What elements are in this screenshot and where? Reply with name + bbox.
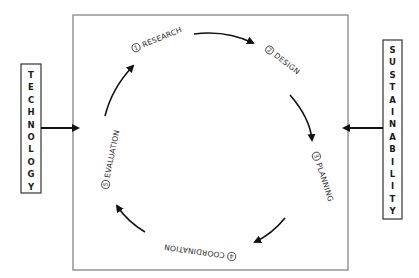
sustainability-input-box: SUSTAINABILITY [383, 40, 402, 219]
step-coordination: 4 COORDINATION [164, 243, 237, 262]
step-design: 2 DESIGN [264, 44, 302, 76]
arrow-research-to-design [194, 33, 253, 43]
arrow-design-to-planning [290, 95, 312, 140]
label-letter: L [390, 169, 396, 179]
label-letter: T [390, 82, 396, 92]
step-evaluation: 5 EVALUATION [100, 129, 121, 189]
svg-text:COORDINATION: COORDINATION [164, 243, 226, 260]
label-letter: I [391, 181, 394, 191]
label-letter: H [27, 107, 34, 117]
svg-text:EVALUATION: EVALUATION [103, 129, 122, 178]
label-letter: B [389, 144, 395, 154]
label-letter: S [389, 70, 395, 80]
svg-text:RESEARCH: RESEARCH [141, 25, 183, 49]
arrow-evaluation-to-research [105, 66, 133, 116]
label-letter: T [390, 194, 396, 204]
technology-input-box: TECHNOLOGY [21, 64, 41, 193]
label-letter: L [28, 144, 34, 154]
label-letter: U [389, 57, 396, 67]
svg-text:PLANNING: PLANNING [314, 161, 335, 202]
label-letter: Y [388, 206, 396, 216]
label-letter: Y [27, 182, 35, 192]
arrow-planning-to-coordination [255, 218, 285, 242]
svg-text:4: 4 [229, 253, 234, 260]
cycle-diagram: TECHNOLOGY SUSTAINABILITY 1 RESEARCH 2 D… [0, 0, 419, 278]
label-letter: O [27, 132, 34, 142]
label-letter: I [391, 157, 394, 167]
label-letter: O [27, 157, 34, 167]
label-letter: N [27, 120, 34, 130]
step-research: 1 RESEARCH [131, 25, 183, 53]
svg-text:DESIGN: DESIGN [272, 51, 301, 77]
label-letter: N [389, 119, 396, 129]
step-planning: 3 PLANNING [311, 151, 335, 203]
label-letter: C [28, 95, 34, 105]
arrow-coordination-to-evaluation [117, 206, 145, 232]
label-letter: S [389, 45, 395, 55]
label-letter: A [389, 132, 396, 142]
label-letter: E [28, 82, 34, 92]
label-letter: G [28, 169, 35, 179]
svg-text:5: 5 [101, 182, 109, 187]
label-letter: I [391, 107, 394, 117]
label-letter: T [28, 70, 34, 80]
label-letter: A [389, 95, 396, 105]
